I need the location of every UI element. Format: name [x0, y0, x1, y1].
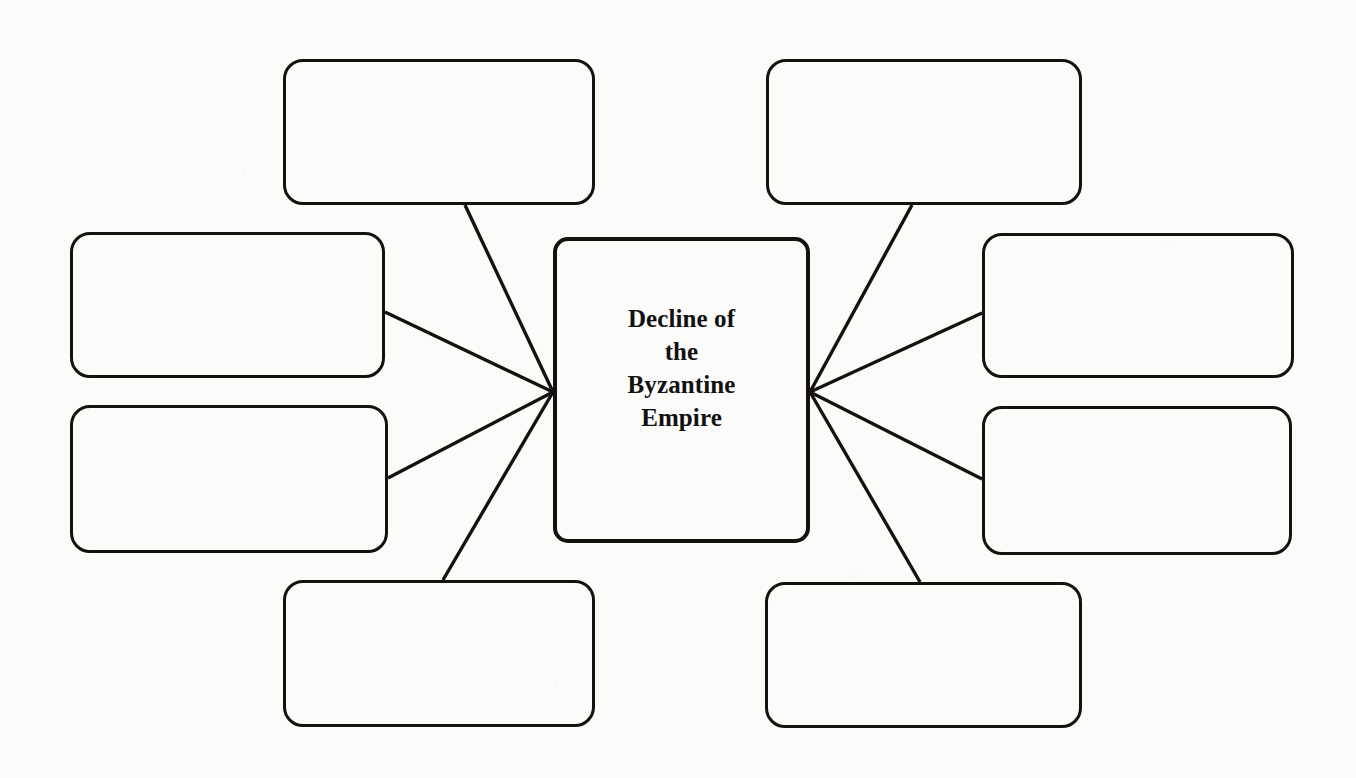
answer-box-bottom-left[interactable] [283, 580, 595, 727]
answer-box-top-left[interactable] [283, 59, 595, 205]
answer-box-top-right[interactable] [766, 59, 1082, 205]
connector-top-right [810, 205, 912, 392]
connector-top-left [465, 205, 553, 392]
concept-web-worksheet: Decline of the Byzantine Empire [0, 0, 1356, 778]
connector-middle-left [385, 312, 553, 392]
answer-box-middle-left[interactable] [70, 232, 385, 378]
answer-box-lower-right[interactable] [982, 406, 1292, 555]
answer-box-bottom-right[interactable] [765, 582, 1082, 728]
answer-box-lower-left[interactable] [70, 405, 388, 553]
center-concept-box: Decline of the Byzantine Empire [553, 237, 810, 543]
answer-box-middle-right[interactable] [982, 233, 1294, 378]
connector-middle-right [810, 313, 982, 392]
center-concept-label: Decline of the Byzantine Empire [628, 302, 736, 434]
